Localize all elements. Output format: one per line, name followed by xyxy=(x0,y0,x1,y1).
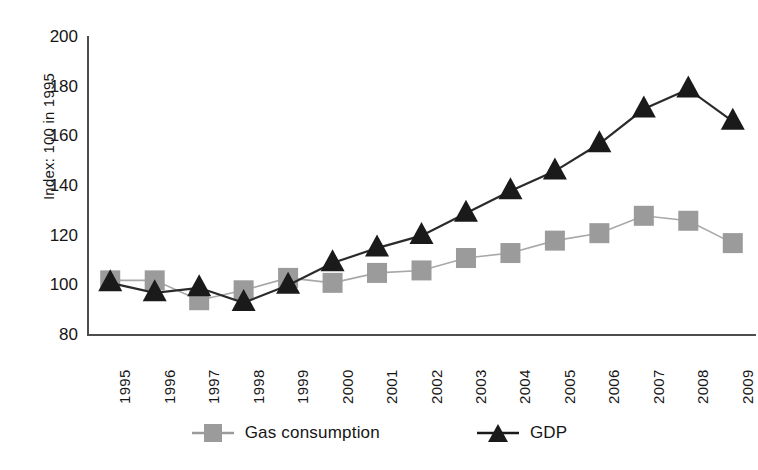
square-marker xyxy=(678,211,698,231)
square-marker xyxy=(634,206,654,226)
x-axis-tick-labels: 1995199619971998199920002001200220032004… xyxy=(88,340,755,410)
y-tick-label: 120 xyxy=(32,227,78,244)
x-tick-label: 1995 xyxy=(116,334,133,404)
square-marker xyxy=(412,260,432,280)
square-marker xyxy=(456,248,476,268)
x-tick-label: 2009 xyxy=(739,334,756,404)
y-tick-label: 140 xyxy=(32,177,78,194)
x-tick-label: 2000 xyxy=(339,334,356,404)
triangle-marker xyxy=(587,130,611,152)
x-tick-label: 2006 xyxy=(605,334,622,404)
legend-label: GDP xyxy=(530,423,567,443)
triangle-marker xyxy=(476,422,520,444)
x-tick-label: 1998 xyxy=(250,334,267,404)
y-tick-label: 180 xyxy=(32,78,78,95)
triangle-marker xyxy=(454,200,478,222)
legend-item[interactable]: GDP xyxy=(476,422,567,444)
legend-label: Gas consumption xyxy=(245,423,380,443)
y-tick-label: 160 xyxy=(32,127,78,144)
square-marker xyxy=(545,231,565,251)
chart-legend: Gas consumptionGDP xyxy=(0,422,758,444)
square-marker xyxy=(723,233,743,253)
y-tick-label: 200 xyxy=(32,28,78,45)
triangle-marker xyxy=(721,108,745,130)
triangle-marker xyxy=(676,76,700,98)
x-tick-label: 2003 xyxy=(472,334,489,404)
square-marker xyxy=(191,422,235,444)
x-tick-label: 2005 xyxy=(561,334,578,404)
square-marker xyxy=(367,263,387,283)
x-tick-label: 1996 xyxy=(161,334,178,404)
series-canvas xyxy=(88,37,755,335)
x-tick-label: 1997 xyxy=(205,334,222,404)
x-tick-label: 1999 xyxy=(294,334,311,404)
x-tick-label: 2001 xyxy=(383,334,400,404)
x-tick-label: 2002 xyxy=(428,334,445,404)
y-axis-tick-labels: 20018016014012010080 xyxy=(22,0,78,470)
plot-area xyxy=(88,37,755,335)
y-tick-label: 80 xyxy=(32,326,78,343)
legend-item[interactable]: Gas consumption xyxy=(191,422,380,444)
x-tick-label: 2008 xyxy=(694,334,711,404)
triangle-marker xyxy=(187,274,211,296)
x-tick-label: 2007 xyxy=(650,334,667,404)
line-chart: Index: 100 in 1995 20018016014012010080 … xyxy=(0,0,758,470)
x-tick-label: 2004 xyxy=(516,334,533,404)
square-marker xyxy=(500,243,520,263)
y-tick-label: 100 xyxy=(32,276,78,293)
square-marker xyxy=(589,223,609,243)
triangle-marker xyxy=(543,157,567,179)
square-marker xyxy=(323,273,343,293)
triangle-marker xyxy=(410,222,434,244)
